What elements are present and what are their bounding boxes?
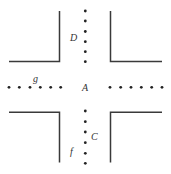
label-C: C xyxy=(91,131,98,142)
top-left-corner xyxy=(9,11,60,62)
dot-bottom-path xyxy=(84,131,87,134)
dot-top-path xyxy=(84,10,87,13)
dot-right-path xyxy=(140,86,143,89)
dot-right-path xyxy=(161,86,164,89)
dot-left-path xyxy=(49,86,52,89)
dot-bottom-path xyxy=(84,110,87,113)
label-g: g xyxy=(33,73,38,84)
label-A: A xyxy=(81,82,89,93)
dot-top-path xyxy=(84,30,87,33)
bottom-right-corner xyxy=(111,112,163,162)
dot-right-path xyxy=(109,86,112,89)
dot-right-path xyxy=(150,86,153,89)
dot-top-path xyxy=(84,20,87,23)
dot-top-path xyxy=(84,60,87,63)
dot-bottom-path xyxy=(84,141,87,144)
label-f: f xyxy=(70,146,74,157)
intersection-diagram: D g A C f xyxy=(0,0,171,174)
dot-bottom-path xyxy=(84,152,87,155)
dot-bottom-path xyxy=(84,120,87,123)
dot-left-path xyxy=(18,86,21,89)
dot-left-path xyxy=(29,86,32,89)
dot-right-path xyxy=(130,86,133,89)
label-D: D xyxy=(69,32,78,43)
bottom-left-corner xyxy=(9,112,60,162)
top-right-corner xyxy=(111,11,163,62)
dot-left-path xyxy=(59,86,62,89)
dot-right-path xyxy=(119,86,122,89)
dot-left-path xyxy=(8,86,11,89)
dot-left-path xyxy=(39,86,42,89)
dot-top-path xyxy=(84,50,87,53)
dot-top-path xyxy=(84,40,87,43)
point-labels: D g A C f xyxy=(33,32,98,157)
dot-bottom-path xyxy=(84,162,87,165)
